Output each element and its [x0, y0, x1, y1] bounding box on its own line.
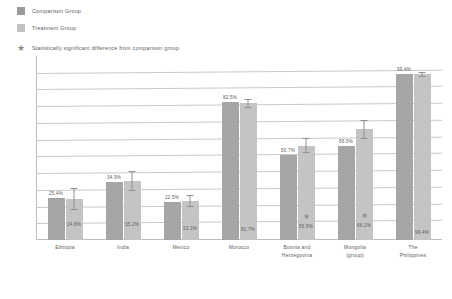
legend-item-comparison-group: Comparison Group: [17, 4, 179, 18]
bar-value-label: 25.4%: [49, 191, 63, 196]
bar-pair: 22.5%23.3%: [152, 56, 210, 240]
legend-label-comparison-group: Comparison Group: [32, 8, 81, 14]
bar-treatment-group[interactable]: 56.5%★: [298, 146, 315, 241]
bar-group: 22.5%23.3%: [152, 56, 210, 240]
plot-area: 25.4%24.8%34.9%35.2%22.5%23.3%82.5%81.7%…: [36, 56, 442, 240]
x-axis-tick-label: Bosnia andHerzegovina: [268, 244, 326, 259]
bar-value-label: 66.1%: [357, 223, 371, 228]
error-bar: [419, 72, 426, 77]
chart-container: Comparison Group Treatment Group ★ Stati…: [0, 0, 452, 299]
error-bar-cap-top: [303, 138, 310, 139]
x-axis-tick-label: Morocco: [210, 244, 268, 259]
error-bar-cap-top: [245, 99, 252, 100]
category-line-1: Morocco: [229, 244, 250, 250]
bar-value-label: 56.5%: [339, 139, 353, 144]
error-bar-cap-top: [419, 72, 426, 73]
bar-group: 56.5%66.1%★: [326, 56, 384, 240]
error-bar-cap-bottom: [419, 76, 426, 77]
x-axis-tick-label: Mongolia(group): [326, 244, 384, 259]
legend-label-significance: Statistically significant difference fro…: [32, 45, 179, 51]
bar-treatment-group[interactable]: 99.4%: [414, 74, 431, 240]
error-bar-cap-top: [71, 188, 78, 189]
bar-group: 34.9%35.2%: [94, 56, 152, 240]
bar-pair: 82.5%81.7%: [210, 56, 268, 240]
bar-value-label: 56.5%: [299, 224, 313, 229]
category-line-2: Herzegovina: [268, 252, 326, 260]
star-icon: ★: [17, 44, 25, 53]
bar-value-label: 22.5%: [165, 195, 179, 200]
error-bar-stem: [306, 138, 307, 153]
bar-comparison-group[interactable]: 99.4%: [396, 74, 413, 240]
bar-value-label: 35.2%: [125, 222, 139, 227]
error-bar-stem: [74, 188, 75, 210]
bar-treatment-group[interactable]: 35.2%: [124, 181, 141, 240]
error-bar-cap-bottom: [245, 107, 252, 108]
bar-pair: 25.4%24.8%: [36, 56, 94, 240]
error-bar: [187, 195, 194, 208]
category-line-2: (group): [326, 252, 384, 260]
significance-star-icon: ★: [361, 212, 368, 220]
bar-pair: 99.4%99.4%: [384, 56, 442, 240]
error-bar: [71, 188, 78, 210]
category-line-1: India: [117, 244, 129, 250]
x-axis-tick-label: ThePhilippines: [384, 244, 442, 259]
bar-group: 99.4%99.4%: [384, 56, 442, 240]
bar-value-label: 99.4%: [397, 67, 411, 72]
bar-value-label: 34.9%: [107, 175, 121, 180]
bar-treatment-group[interactable]: 24.8%: [66, 199, 83, 240]
error-bar-cap-top: [129, 171, 136, 172]
error-bar-stem: [364, 120, 365, 138]
category-line-1: Bosnia and: [283, 244, 310, 250]
bar-comparison-group[interactable]: 50.7%: [280, 155, 297, 240]
bar-group: 82.5%81.7%: [210, 56, 268, 240]
bar-comparison-group[interactable]: 82.5%: [222, 102, 239, 240]
error-bar-cap-top: [361, 120, 368, 121]
legend-item-significance: ★ Statistically significant difference f…: [17, 41, 179, 55]
category-line-1: Mongolia: [344, 244, 366, 250]
category-line-1: Mexico: [172, 244, 189, 250]
error-bar-cap-bottom: [71, 209, 78, 210]
x-axis-category-labels: EthiopiaIndiaMexicoMoroccoBosnia andHerz…: [36, 244, 442, 259]
bar-comparison-group[interactable]: 22.5%: [164, 202, 181, 240]
category-line-2: Philippines: [384, 252, 442, 260]
treatment-group-swatch-icon: [17, 24, 25, 32]
category-line-1: Ethiopia: [55, 244, 75, 250]
error-bar-stem: [132, 171, 133, 190]
x-axis-tick-label: Mexico: [152, 244, 210, 259]
chart-legend: Comparison Group Treatment Group ★ Stati…: [17, 4, 179, 58]
error-bar-cap-bottom: [361, 138, 368, 139]
bar-comparison-group[interactable]: 25.4%: [48, 198, 65, 240]
bar-group: 25.4%24.8%: [36, 56, 94, 240]
bar-value-label: 82.5%: [223, 95, 237, 100]
bar-treatment-group[interactable]: 66.1%★: [356, 129, 373, 240]
bar-groups: 25.4%24.8%34.9%35.2%22.5%23.3%82.5%81.7%…: [36, 56, 442, 240]
error-bar: [245, 99, 252, 108]
error-bar-cap-bottom: [303, 152, 310, 153]
bar-value-label: 24.8%: [67, 222, 81, 227]
legend-label-treatment-group: Treatment Group: [32, 25, 76, 31]
bar-group: 50.7%56.5%★: [268, 56, 326, 240]
x-axis-tick-label: Ethiopia: [36, 244, 94, 259]
bar-comparison-group[interactable]: 56.5%: [338, 146, 355, 241]
bar-pair: 34.9%35.2%: [94, 56, 152, 240]
bar-comparison-group[interactable]: 34.9%: [106, 182, 123, 240]
error-bar-cap-bottom: [129, 190, 136, 191]
comparison-group-swatch-icon: [17, 7, 25, 15]
bar-pair: 56.5%66.1%★: [326, 56, 384, 240]
error-bar: [303, 138, 310, 153]
bar-treatment-group[interactable]: 81.7%: [240, 103, 257, 240]
legend-item-treatment-group: Treatment Group: [17, 21, 179, 35]
error-bar-cap-bottom: [187, 206, 194, 207]
error-bar: [361, 120, 368, 138]
significance-star-icon: ★: [303, 213, 310, 221]
bar-pair: 50.7%56.5%★: [268, 56, 326, 240]
bar-value-label: 99.4%: [415, 230, 429, 235]
category-line-1: The: [408, 244, 417, 250]
error-bar-cap-top: [187, 195, 194, 196]
bar-value-label: 23.3%: [183, 226, 197, 231]
x-axis-tick-label: India: [94, 244, 152, 259]
bar-value-label: 50.7%: [281, 148, 295, 153]
bar-treatment-group[interactable]: 23.3%: [182, 201, 199, 240]
bar-value-label: 81.7%: [241, 227, 255, 232]
error-bar: [129, 171, 136, 190]
